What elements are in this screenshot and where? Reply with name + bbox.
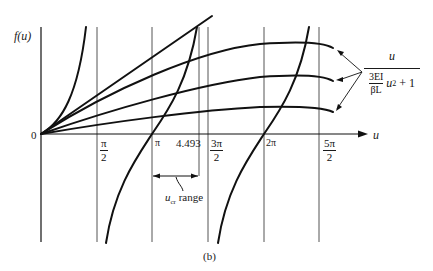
range-arrowhead-left <box>153 174 160 179</box>
tick-4493: 4.493 <box>176 138 201 149</box>
pointer-arrowhead-3 <box>336 104 342 111</box>
range-text: range <box>179 191 203 203</box>
formula-numerator: u <box>389 49 395 64</box>
pointer-arrowhead-2 <box>336 77 343 82</box>
range-arrowhead-right <box>191 174 198 179</box>
tick-numerator: 5π <box>323 138 336 150</box>
rational-function-formula: u 3EI βL u2 + 1 <box>364 49 420 95</box>
line-steep <box>41 16 212 134</box>
formula-fraction-bar <box>364 68 420 69</box>
y-axis-label: f(u) <box>14 30 31 42</box>
formula-denominator: 3EI βL u2 + 1 <box>369 72 415 95</box>
tick-2pi: 2π <box>266 138 276 148</box>
pointer-arrow-3 <box>337 72 362 109</box>
tick-denominator: 2 <box>101 151 107 163</box>
range-arrow-leader <box>176 177 183 191</box>
pointer-arrow-1 <box>339 52 362 72</box>
tick-denominator: 2 <box>327 151 333 163</box>
formula-exponent: 2 <box>392 79 396 88</box>
formula-coefficient: 3EI βL <box>369 72 383 95</box>
x-axis-label: u <box>373 129 379 141</box>
tick-3pi-over-2: 3π 2 <box>210 138 223 163</box>
figure-caption: (b) <box>203 251 216 262</box>
coef-denominator: βL <box>371 85 382 95</box>
ucr-subscript: cr <box>171 198 176 206</box>
tick-pi-over-2: π 2 <box>100 138 108 163</box>
ucr-range-label: ucr range <box>165 192 203 206</box>
coef-numerator: 3EI <box>369 72 383 82</box>
tick-pi: π <box>155 138 160 148</box>
tick-5pi-over-2: 5π 2 <box>323 138 336 163</box>
tick-numerator: π <box>100 138 108 150</box>
diagram-canvas <box>0 0 433 271</box>
formula-constant: + 1 <box>399 76 415 91</box>
origin-label: 0 <box>31 130 37 141</box>
x-axis-arrowhead <box>358 131 368 138</box>
tick-denominator: 2 <box>214 151 220 163</box>
tick-numerator: 3π <box>210 138 223 150</box>
